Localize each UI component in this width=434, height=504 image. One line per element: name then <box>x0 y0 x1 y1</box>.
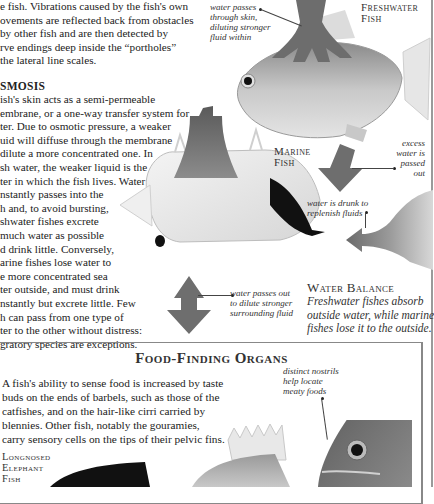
perch-illustration <box>192 424 290 487</box>
water-passes-out-arrow <box>167 276 211 334</box>
caption-line: surrounding fluid <box>230 308 293 318</box>
caption-excess-water: excess water is passed out <box>385 138 425 178</box>
food-finding-illustrations <box>0 420 422 487</box>
caption-line: replenish fluids <box>307 208 368 218</box>
caption-line: water is drunk to <box>307 198 368 208</box>
food-finding-title: Food-Finding Organs <box>135 350 288 366</box>
caption-line: fluid within <box>210 32 270 42</box>
caption-water-passes-skin: water passes through skin, diluting stro… <box>210 2 270 42</box>
water-balance-line: Freshwater fishes absorb <box>307 295 434 309</box>
caption-leader-line <box>198 295 231 296</box>
caption-line: diluting stronger <box>210 22 270 32</box>
caption-water-drunk: water is drunk to replenish fluids <box>307 198 368 218</box>
food-finding-title-wrap: Food-Finding Organs <box>0 349 423 367</box>
caption-line: distinct nostrils <box>283 366 339 376</box>
caption-line: water passes <box>210 2 270 12</box>
caption-nostrils: distinct nostrils help locate meaty food… <box>283 366 339 396</box>
caption-line: passed <box>385 158 425 168</box>
caption-line: water is <box>385 148 425 158</box>
caption-line: out <box>385 168 425 178</box>
caption-line: water passes out <box>230 288 293 298</box>
food-line: A fish's ability to sense food is increa… <box>2 376 225 390</box>
caption-line: meaty foods <box>283 386 339 396</box>
food-line: catfishes, and on the hair-like cirri ca… <box>2 404 225 418</box>
label-line: Fish <box>274 157 311 168</box>
elephant-fish-illustration <box>50 462 150 487</box>
caption-line: excess <box>385 138 425 148</box>
fish-head-illustration <box>318 420 412 487</box>
freshwater-fish-label: Freshwater Fish <box>361 2 418 24</box>
marine-fish-label: Marine Fish <box>274 146 311 168</box>
caption-water-passes-out: water passes out to dilute stronger surr… <box>230 288 293 318</box>
water-balance-caption: Water Balance Freshwater fishes absorb o… <box>307 281 434 336</box>
caption-line: to dilute stronger <box>230 298 293 308</box>
caption-line: through skin, <box>210 12 270 22</box>
marine-outflow-up-arrow <box>174 106 238 178</box>
water-balance-line: fishes lose it to the outside. <box>307 322 434 336</box>
label-line: Fish <box>361 13 418 24</box>
caption-line: help locate <box>283 376 339 386</box>
water-balance-title: Water Balance <box>307 281 434 295</box>
water-balance-line: outside water, while marine <box>307 309 434 323</box>
food-line: buds on the ends of barbels, such as tho… <box>2 390 225 404</box>
